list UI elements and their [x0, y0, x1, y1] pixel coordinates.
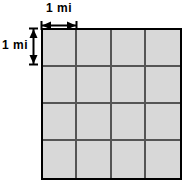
grid-cell [43, 104, 77, 141]
grid-cell [77, 141, 111, 178]
horizontal-dimension-arrow [40, 17, 78, 28]
grid-cell [112, 67, 146, 104]
square-grid [41, 28, 182, 180]
grid-cell [146, 104, 180, 141]
top-dimension-label: 1 mi [41, 1, 77, 15]
grid-cell [146, 30, 180, 67]
grid-diagram: 1 mi 1 mi [0, 0, 189, 190]
grid-cell [112, 104, 146, 141]
left-dimension-label: 1 mi [1, 38, 28, 52]
grid-cell [146, 67, 180, 104]
grid-cell [112, 30, 146, 67]
grid-cell [112, 141, 146, 178]
grid-cell [77, 30, 111, 67]
grid-cell [43, 141, 77, 178]
grid-cell [43, 67, 77, 104]
grid-cell [43, 30, 77, 67]
vertical-dimension-arrow [28, 27, 39, 66]
grid-cell [146, 141, 180, 178]
grid-cell [77, 104, 111, 141]
grid-cell [77, 67, 111, 104]
